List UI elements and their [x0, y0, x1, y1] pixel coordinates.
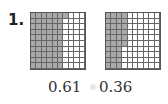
- hundred-grid-2: [105, 12, 161, 70]
- hundred-grid-1: [30, 12, 86, 70]
- decimal-label-1: 0.61: [48, 78, 81, 96]
- grid-cell: [155, 63, 160, 69]
- problem-number: 1.: [8, 11, 24, 29]
- decimal-label-2: 0.36: [99, 78, 132, 96]
- comparison-circle[interactable]: [90, 84, 96, 90]
- grid-cell: [80, 63, 85, 69]
